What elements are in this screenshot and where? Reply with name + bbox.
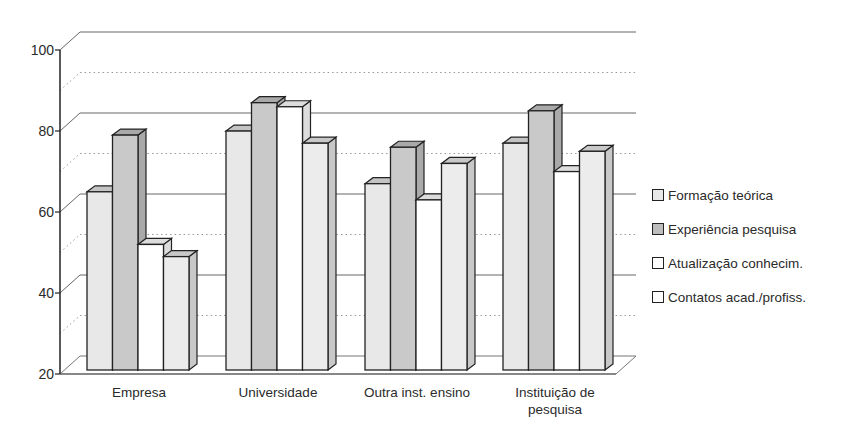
bar-group <box>87 129 197 370</box>
legend-label: Formação teórica <box>668 188 773 203</box>
legend-item-atualizacao-conhecim: Atualização conhecim. <box>652 246 806 280</box>
legend-swatch-icon <box>652 189 664 201</box>
bar <box>503 143 529 370</box>
legend-item-experiencia-pesquisa: Experiência pesquisa <box>652 212 806 246</box>
bar <box>252 103 278 370</box>
y-tick-label: 100 <box>31 42 55 58</box>
bar <box>365 184 391 370</box>
bar <box>138 244 164 370</box>
bar-series <box>87 97 613 370</box>
y-tick-label: 40 <box>38 285 54 301</box>
bar-group <box>503 105 613 370</box>
legend-label: Experiência pesquisa <box>668 222 796 237</box>
x-tick-label: Empresa <box>74 384 204 401</box>
legend-swatch-icon <box>652 223 664 235</box>
bar <box>164 257 190 370</box>
y-tick-label: 60 <box>38 204 54 220</box>
bar <box>554 172 580 370</box>
bar <box>277 107 303 370</box>
bar <box>391 147 417 370</box>
bar <box>529 111 555 370</box>
legend-swatch-icon <box>652 291 664 303</box>
legend-label: Contatos acad./profiss. <box>668 290 806 305</box>
legend-swatch-icon <box>652 257 664 269</box>
bar-group <box>226 97 336 370</box>
y-tick-label: 80 <box>38 123 54 139</box>
x-tick-label: Instituição depesquisa <box>490 384 620 418</box>
bar <box>303 143 329 370</box>
x-tick-label: Universidade <box>213 384 343 401</box>
legend: Formação teórica Experiência pesquisa At… <box>652 178 806 314</box>
bar <box>87 192 113 370</box>
legend-label: Atualização conhecim. <box>668 256 803 271</box>
bar <box>416 200 442 370</box>
bar <box>226 131 252 370</box>
x-tick-label: Outra inst. ensino <box>352 384 482 401</box>
bar <box>580 151 606 370</box>
bar-group <box>365 141 475 370</box>
bar <box>113 135 139 370</box>
legend-item-formacao-teorica: Formação teórica <box>652 178 806 212</box>
y-tick-label: 20 <box>38 366 54 382</box>
legend-item-contatos-acad-profiss: Contatos acad./profiss. <box>652 280 806 314</box>
bar <box>442 163 468 370</box>
